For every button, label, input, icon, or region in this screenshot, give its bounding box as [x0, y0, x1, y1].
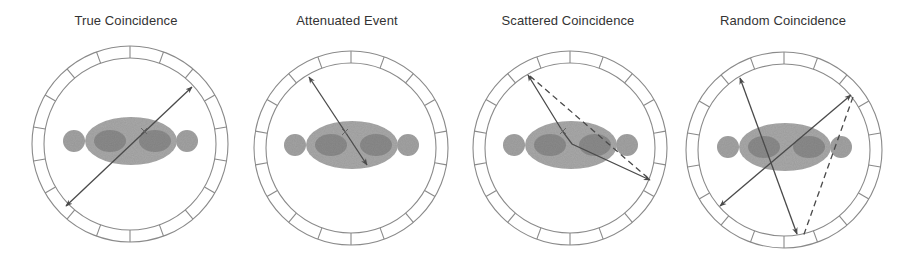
panel-2 [254, 51, 448, 245]
right-arm [176, 130, 198, 152]
detector-segment-divider [537, 228, 541, 239]
detector-segment-divider [858, 101, 868, 107]
right-arm [397, 134, 419, 156]
panel-3 [473, 51, 667, 245]
detector-segment-divider [67, 210, 75, 219]
detector-segment-divider [33, 127, 45, 129]
panel-title: Attenuated Event [296, 13, 397, 28]
left-arm [717, 136, 739, 158]
detector-segment-divider [215, 127, 227, 129]
right-arm [616, 134, 638, 156]
detector-segment-divider [204, 95, 214, 101]
detector-segment-divider [425, 191, 435, 197]
detector-segment-divider [625, 213, 633, 222]
detector-segment-divider [185, 210, 193, 219]
detector-segment-divider [699, 101, 709, 107]
detector-segment-divider [721, 216, 729, 225]
detector-segment-divider [699, 193, 709, 199]
detector-segment-divider [96, 225, 100, 236]
detector-segment-divider [159, 52, 163, 63]
detector-segment-divider [869, 165, 881, 167]
detector-segment-divider [813, 231, 817, 242]
detector-segment-divider [508, 74, 516, 83]
detector-segment-divider [425, 100, 435, 106]
detector-segment-divider [435, 163, 447, 165]
detector-segment-divider [406, 213, 414, 222]
left-arm [503, 134, 525, 156]
detector-segment-divider [869, 133, 881, 135]
detector-segment-divider [267, 100, 277, 106]
panel-1 [32, 46, 228, 242]
detector-segment-divider [255, 131, 267, 133]
detector-segment-divider [687, 165, 699, 167]
detector-segment-divider [750, 231, 754, 242]
patient-phantom [63, 117, 198, 165]
detector-segment-divider [318, 228, 322, 239]
detector-segment-divider [33, 159, 45, 161]
detector-segment-divider [255, 163, 267, 165]
detector-segment-divider [644, 100, 654, 106]
detector-segment-divider [406, 74, 414, 83]
detector-segment-divider [289, 74, 297, 83]
left-arm [284, 134, 306, 156]
panel-title: Scattered Coincidence [502, 13, 635, 28]
organ-right [360, 134, 392, 156]
detector-segment-divider [215, 159, 227, 161]
apparent-line-of-response [803, 97, 853, 237]
left-arm [63, 130, 85, 152]
detector-segment-divider [486, 100, 496, 106]
pet-coincidence-diagram [0, 0, 909, 264]
panel-4 [686, 52, 882, 248]
panel-title: True Coincidence [74, 13, 177, 28]
patient-phantom [503, 121, 638, 169]
detector-segment-divider [318, 57, 322, 68]
detector-segment-divider [599, 228, 603, 239]
detector-segment-divider [508, 213, 516, 222]
organ-left [534, 134, 566, 156]
detector-segment-divider [625, 74, 633, 83]
detector-segment-divider [537, 57, 541, 68]
detector-segment-divider [721, 75, 729, 84]
panel-title: Random Coincidence [720, 13, 846, 28]
organ-left [94, 130, 126, 152]
detector-segment-divider [96, 52, 100, 63]
detector-segment-divider [654, 163, 666, 165]
detector-segment-divider [839, 75, 847, 84]
detector-segment-divider [204, 187, 214, 193]
detector-segment-divider [599, 57, 603, 68]
detector-segment-divider [185, 69, 193, 78]
detector-segment-divider [813, 58, 817, 69]
detector-segment-divider [435, 131, 447, 133]
detector-segment-divider [644, 191, 654, 197]
detector-segment-divider [687, 133, 699, 135]
detector-segment-divider [45, 187, 55, 193]
organ-right [579, 134, 611, 156]
detector-segment-divider [750, 58, 754, 69]
organ-left [748, 136, 780, 158]
right-arm [830, 136, 852, 158]
patient-phantom [284, 121, 419, 169]
detector-segment-divider [486, 191, 496, 197]
detector-segment-divider [67, 69, 75, 78]
detector-segment-divider [289, 213, 297, 222]
detector-segment-divider [474, 131, 486, 133]
patient-phantom [717, 123, 852, 171]
detector-segment-divider [654, 131, 666, 133]
detector-segment-divider [380, 228, 384, 239]
detector-segment-divider [380, 57, 384, 68]
detector-segment-divider [267, 191, 277, 197]
organ-left [315, 134, 347, 156]
detector-segment-divider [45, 95, 55, 101]
detector-segment-divider [839, 216, 847, 225]
detector-segment-divider [159, 225, 163, 236]
detector-segment-divider [858, 193, 868, 199]
detector-segment-divider [474, 163, 486, 165]
